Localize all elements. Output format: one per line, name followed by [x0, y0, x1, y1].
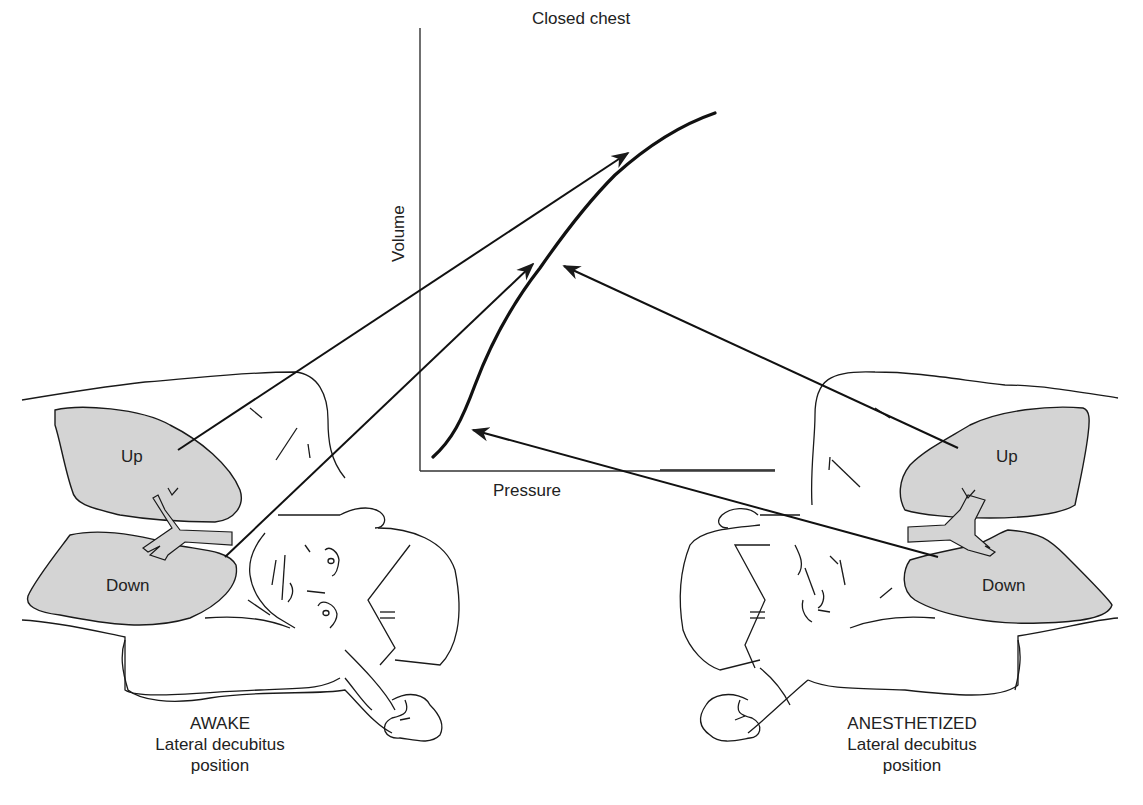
y-axis-label: Volume — [389, 205, 409, 262]
x-axis-label: Pressure — [493, 481, 561, 501]
anesthetized-down-label: Down — [982, 576, 1025, 596]
pressure-volume-chart — [420, 28, 775, 471]
arrow-awake-down — [225, 264, 533, 557]
anesthetized-up-label: Up — [996, 447, 1018, 467]
awake-caption-title: AWAKE — [150, 713, 290, 734]
awake-down-label: Down — [106, 576, 149, 596]
diagram-canvas — [0, 0, 1143, 805]
arrow-awake-up — [178, 153, 628, 450]
chart-title: Closed chest — [532, 9, 630, 29]
anesthetized-caption-title: ANESTHETIZED — [832, 713, 992, 734]
arrow-anesthetized-up — [564, 266, 958, 448]
awake-caption-line3: position — [150, 755, 290, 776]
pressure-volume-curve — [433, 113, 715, 457]
arrows — [178, 153, 958, 557]
anesthetized-caption: ANESTHETIZED Lateral decubitus position — [832, 713, 992, 776]
awake-up-lung — [55, 407, 241, 522]
anesthetized-caption-line3: position — [832, 755, 992, 776]
anesthetized-up-lung — [900, 407, 1089, 518]
awake-caption-line2: Lateral decubitus — [150, 734, 290, 755]
awake-caption: AWAKE Lateral decubitus position — [150, 713, 290, 776]
awake-up-label: Up — [121, 447, 143, 467]
anesthetized-caption-line2: Lateral decubitus — [832, 734, 992, 755]
